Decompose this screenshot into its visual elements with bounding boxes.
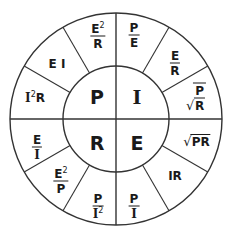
formula-p-over-e: P E bbox=[129, 22, 140, 49]
formula-sqrt-p-over-r: √ P R bbox=[186, 83, 206, 112]
formula-e-squared-over-p: E2 P bbox=[53, 168, 68, 195]
formula-sqrt-pr: √ PR bbox=[183, 134, 210, 148]
wheel-diagram bbox=[0, 0, 227, 243]
formula-i-squared-r: I2R bbox=[25, 92, 45, 104]
formula-e-squared-over-r: E2 R bbox=[90, 23, 105, 50]
formula-e-over-r: E R bbox=[170, 50, 180, 77]
current-letter: I bbox=[133, 88, 142, 107]
formula-p-over-i-squared: P I2 bbox=[93, 193, 104, 220]
formula-p-over-i: P I bbox=[129, 193, 140, 220]
voltage-letter: E bbox=[131, 134, 144, 153]
formula-e-over-i: E I bbox=[32, 134, 42, 161]
formula-e-times-i: E I bbox=[49, 58, 66, 70]
formula-i-times-r: IR bbox=[168, 170, 182, 182]
resistance-letter: R bbox=[90, 134, 105, 153]
power-letter: P bbox=[90, 88, 104, 107]
